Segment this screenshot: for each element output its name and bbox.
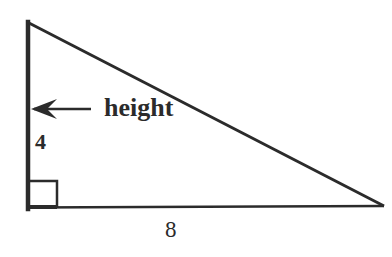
triangle-hypotenuse [29, 23, 384, 206]
height-value-label: 4 [35, 129, 46, 154]
height-label: height [104, 93, 174, 122]
triangle-diagram: height 4 8 [0, 0, 392, 257]
arrow-left-icon [31, 99, 91, 119]
right-angle-marker [28, 181, 57, 208]
base-value-label: 8 [165, 217, 177, 242]
triangle-base-side [27, 206, 384, 208]
